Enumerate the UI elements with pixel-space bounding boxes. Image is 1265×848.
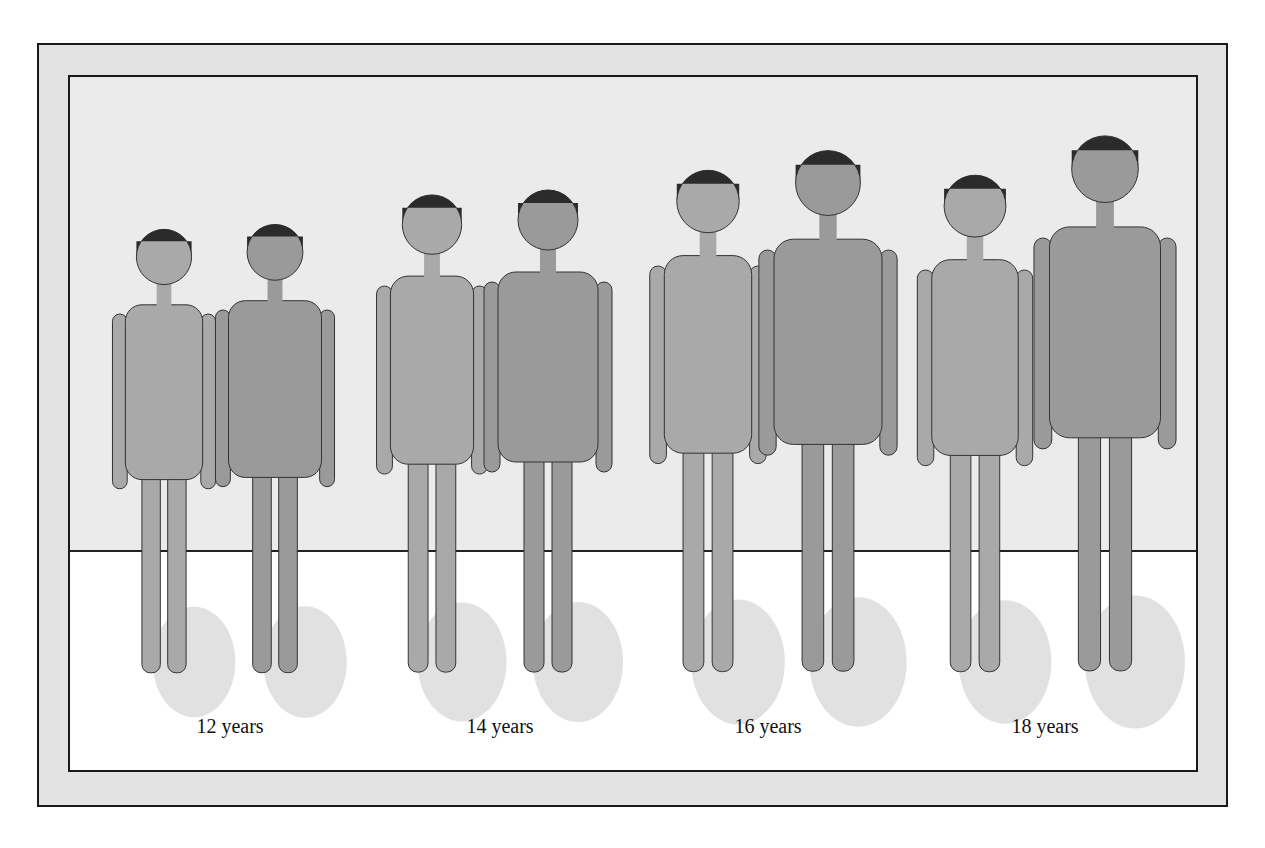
age-label-18: 18 years — [965, 715, 1125, 738]
age-label-14: 14 years — [420, 715, 580, 738]
age-label-12: 12 years — [150, 715, 310, 738]
figure-silhouettes — [70, 77, 1196, 770]
age-label-16: 16 years — [688, 715, 848, 738]
illustration-panel: 12 years 14 years 16 years 18 years — [68, 75, 1198, 772]
